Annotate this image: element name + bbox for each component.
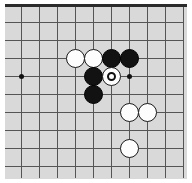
white-stone-2[interactable] [84, 49, 103, 68]
page-margin-bottom [0, 179, 192, 183]
white-stone-3[interactable] [120, 103, 139, 122]
black-stone-2[interactable] [120, 49, 139, 68]
stone-marker-circle-icon [107, 72, 116, 81]
black-stone-3[interactable] [84, 67, 103, 86]
white-stone-4[interactable] [138, 103, 157, 122]
black-stone-4[interactable] [84, 85, 103, 104]
white-stone-marked[interactable] [102, 67, 121, 86]
page-margin-right [187, 0, 192, 183]
page-margin-left [0, 0, 5, 183]
white-stone-5[interactable] [120, 139, 139, 158]
black-stone-1[interactable] [102, 49, 121, 68]
white-stone-1[interactable] [66, 49, 85, 68]
go-diagram-screen [0, 0, 192, 183]
page-margin-top [0, 0, 192, 4]
go-stones-layer [0, 0, 192, 183]
